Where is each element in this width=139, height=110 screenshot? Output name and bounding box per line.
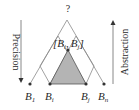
- interval-label: [Bi,Bj]: [53, 37, 84, 51]
- abstraction-label: Abstraction: [119, 29, 130, 76]
- node-label-b1: B1: [25, 90, 35, 104]
- node-dot-bj: [84, 82, 87, 85]
- interval-triangle: [50, 50, 86, 84]
- node-dot-b1: [28, 82, 31, 85]
- top-question-label: ?: [66, 3, 71, 14]
- precision-label: Precision: [11, 33, 22, 70]
- node-label-bn: Bn: [98, 90, 109, 104]
- lattice-diagram: Precision Abstraction ? [Bi,Bj] B1 Bi: [0, 0, 139, 110]
- abstraction-arrow: [111, 20, 116, 84]
- node-label-bi: Bi: [45, 90, 54, 104]
- node-dot-bi: [48, 82, 51, 85]
- node-label-bj: Bj: [81, 90, 90, 104]
- node-dot-bn: [102, 82, 105, 85]
